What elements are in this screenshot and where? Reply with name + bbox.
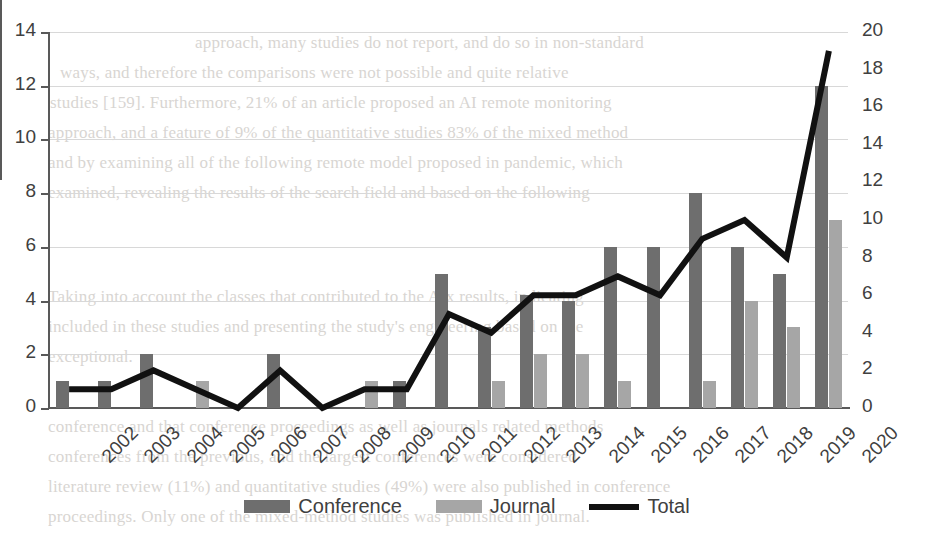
x-axis-label-2010: 2010 (435, 422, 480, 467)
x-axis-label-2017: 2017 (731, 422, 776, 467)
legend-label-conference: Conference (298, 495, 401, 518)
x-axis-label-2018: 2018 (773, 422, 818, 467)
journal-swatch-icon (436, 500, 482, 513)
x-axis-label-2004: 2004 (182, 422, 227, 467)
x-axis-label-2009: 2009 (393, 422, 438, 467)
x-axis-label-2019: 2019 (815, 422, 860, 467)
conference-swatch-icon (244, 500, 290, 513)
x-axis-labels: 2002200320042005200620072008200920102011… (0, 0, 934, 547)
publications-per-year-chart: 02468101214 02468101214161820 2002200320… (0, 0, 934, 547)
x-axis-label-2020: 2020 (857, 422, 902, 467)
legend-item-journal[interactable]: Journal (436, 495, 556, 518)
x-axis-label-2015: 2015 (646, 422, 691, 467)
chart-legend: Conference Journal Total (0, 495, 934, 518)
total-line-swatch-icon (589, 504, 639, 510)
x-axis-label-2012: 2012 (520, 422, 565, 467)
x-axis-label-2007: 2007 (309, 422, 354, 467)
legend-label-total: Total (647, 495, 689, 518)
x-axis-label-2014: 2014 (604, 422, 649, 467)
x-axis-label-2005: 2005 (224, 422, 269, 467)
x-axis-label-2002: 2002 (97, 422, 142, 467)
legend-label-journal: Journal (490, 495, 556, 518)
legend-item-total[interactable]: Total (589, 495, 689, 518)
x-axis-label-2016: 2016 (688, 422, 733, 467)
x-axis-label-2003: 2003 (140, 422, 185, 467)
x-axis-label-2011: 2011 (477, 422, 521, 466)
x-axis-label-2013: 2013 (562, 422, 607, 467)
legend-item-conference[interactable]: Conference (244, 495, 401, 518)
x-axis-label-2008: 2008 (351, 422, 396, 467)
x-axis-label-2006: 2006 (266, 422, 311, 467)
